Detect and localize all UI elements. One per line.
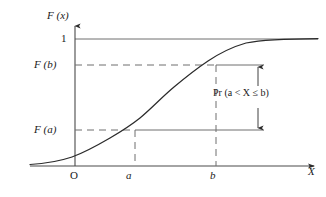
- level-label-fb: F (b): [34, 59, 56, 70]
- cdf-plot-svg: [0, 0, 326, 197]
- y-axis-label: F (x): [47, 10, 69, 21]
- cdf-figure: F (x) 1 F (b) F (a) O a b X Pr (a < X ≤ …: [0, 0, 326, 197]
- cdf-curve: [30, 39, 318, 165]
- x-axis-label: X: [308, 166, 315, 177]
- x-tick-label-b: b: [210, 170, 216, 181]
- tick-label-one: 1: [61, 33, 67, 44]
- x-tick-label-a: a: [126, 170, 132, 181]
- origin-label: O: [70, 170, 78, 181]
- level-label-fa: F (a): [34, 124, 56, 135]
- probability-annotation-label: Pr (a < X ≤ b): [213, 88, 269, 98]
